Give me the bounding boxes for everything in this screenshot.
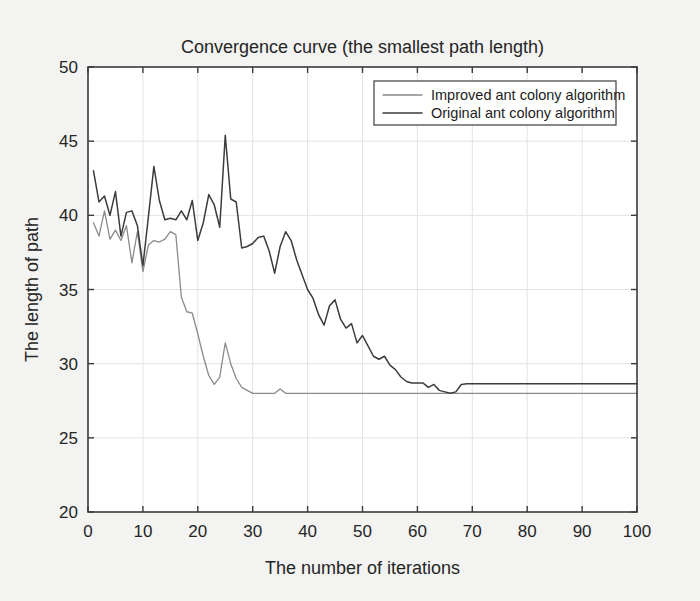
figure-container: 0102030405060708090100 20253035404550 Co… — [0, 0, 700, 601]
x-tick-label: 20 — [188, 522, 207, 541]
y-tick-label: 25 — [59, 429, 78, 448]
x-tick-label: 70 — [463, 522, 482, 541]
x-axis-label: The number of iterations — [265, 558, 460, 578]
x-tick-label: 100 — [623, 522, 651, 541]
x-tick-label: 40 — [298, 522, 317, 541]
y-tick-label: 35 — [59, 281, 78, 300]
x-tick-label: 0 — [83, 522, 92, 541]
x-tick-label: 50 — [353, 522, 372, 541]
x-tick-label: 30 — [243, 522, 262, 541]
y-tick-label: 20 — [59, 503, 78, 522]
x-tick-label: 60 — [408, 522, 427, 541]
x-tick-label: 90 — [573, 522, 592, 541]
x-tick-label: 80 — [518, 522, 537, 541]
chart-legend: Improved ant colony algorithm Original a… — [374, 81, 625, 125]
y-tick-label: 50 — [59, 58, 78, 77]
chart-title: Convergence curve (the smallest path len… — [181, 37, 544, 57]
legend-label-original: Original ant colony algorithm — [431, 105, 615, 121]
convergence-chart: 0102030405060708090100 20253035404550 Co… — [0, 0, 700, 601]
y-tick-label: 40 — [59, 206, 78, 225]
y-tick-label: 30 — [59, 355, 78, 374]
x-tick-label: 10 — [133, 522, 152, 541]
y-axis-label: The length of path — [22, 217, 42, 362]
legend-label-improved: Improved ant colony algorithm — [431, 87, 625, 103]
y-tick-label: 45 — [59, 132, 78, 151]
